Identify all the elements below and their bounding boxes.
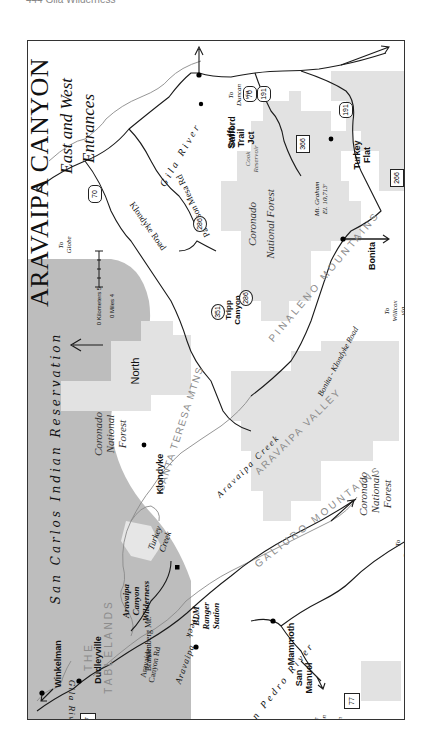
tablelands-label-2: TABLELANDS xyxy=(103,587,114,707)
dest-duncan-2: Duncan xyxy=(235,84,243,106)
forest-galiuro-label: Coronado National Forest xyxy=(357,472,393,516)
scale-km-end: 5 xyxy=(96,287,102,290)
map-frame: ARAVAIPA CANYON East and West Entrances … xyxy=(27,40,405,720)
blm-label-2: Ranger xyxy=(201,602,211,630)
town-turkey-flat-1: Turkey xyxy=(352,141,362,170)
shield-us191-a: 191 xyxy=(257,86,271,102)
scale-miles-label: 0 Miles 4 xyxy=(109,294,115,318)
dest-redington-1: To xyxy=(394,529,402,558)
forest-pinaleno-label: Coronado National Forest xyxy=(243,189,279,259)
patterson-mesa-label: Patterson Mesa Rd xyxy=(165,154,221,258)
dest-redington: To Redington xyxy=(394,529,405,558)
forest-pinaleno-label-1: Coronado xyxy=(243,189,261,259)
map-subtitle-line2: Entrances xyxy=(79,94,99,163)
dest-globe: To Globe xyxy=(57,236,73,253)
forest-north-label-2: National xyxy=(104,412,116,456)
north-label: North xyxy=(129,358,141,385)
turkey-creek-label: Turkey Creek xyxy=(146,525,175,556)
forest-galiuro-label-3: Forest xyxy=(381,472,393,516)
dest-willcox: To Willcox via Fort Grant Road xyxy=(383,301,406,322)
dest-globe-2: Globe xyxy=(65,236,73,253)
shield-sr286-b: 286 xyxy=(239,290,253,306)
mt-graham-label-2: El. 10,713' xyxy=(321,182,329,217)
town-dudleyville: Dudleyville xyxy=(93,636,103,684)
reservation-label: San Carlos Indian Reservation xyxy=(49,318,63,618)
dest-globe-1: To xyxy=(57,236,65,253)
town-bonita: Bonita xyxy=(367,242,377,270)
shield-sr366: 366 xyxy=(296,135,310,153)
town-san-manuel-2: Manuel xyxy=(304,662,314,693)
san-pedro-river-label: San Pedro River xyxy=(224,620,331,720)
scale-km-label: 0 Kilometers 5 xyxy=(96,287,102,325)
forest-north-label-1: Coronado xyxy=(92,412,104,456)
blm-label-3: Station xyxy=(211,602,221,630)
town-winkelman: Winkelman xyxy=(53,640,63,687)
gila-river-label-west: Gila River xyxy=(67,680,77,720)
wilderness-label-2: Canyon xyxy=(131,581,141,622)
map-subtitle-line1: East and West xyxy=(57,78,77,174)
town-tripp-canyon-1: Tripp xyxy=(224,295,233,324)
brandenberg-label-2: Mt. xyxy=(144,617,153,628)
shield-sr77-b: 77 xyxy=(344,693,360,709)
shield-sr286-a: 286 xyxy=(193,216,207,232)
shield-sr266: 266 xyxy=(390,169,404,187)
dest-duncan-3: via xyxy=(243,84,251,106)
map-title-block: ARAVAIPA CANYON East and West Entrances xyxy=(27,50,111,720)
town-turkey-flat: Turkey Flat xyxy=(352,141,372,170)
cook-label-1: Cook xyxy=(244,145,252,172)
shield-us70-top: 70 xyxy=(88,185,102,203)
shield-sr77-a: 77 xyxy=(80,713,96,720)
shield-us191-b: 191 xyxy=(339,102,353,118)
forest-galiuro-label-1: Coronado xyxy=(357,472,369,516)
dest-willcox-1: To xyxy=(383,301,391,322)
cook-reservoir-label: Cook Reservoir xyxy=(244,145,260,172)
page-header: 444 Gila Wilderness xyxy=(26,0,115,5)
klondyke-road-label: Klondyke Road xyxy=(115,182,181,270)
scale-miles-start: 0 xyxy=(109,315,115,318)
mt-graham-label-1: Mt. Graham xyxy=(313,182,321,217)
wilderness-label: Aravaipa Canyon Wilderness xyxy=(121,581,151,622)
scale-miles-text: Miles xyxy=(109,299,115,313)
town-klondyke: Klondyke xyxy=(155,454,165,495)
dest-duncan-1: To xyxy=(227,84,235,106)
dest-duncan: To Duncan via xyxy=(227,84,251,106)
cook-label-2: Reservoir xyxy=(252,145,260,172)
bonita-klondyke-label: Bonita - Klondyke Road xyxy=(306,306,370,416)
map-title: ARAVAIPA CANYON xyxy=(27,58,55,307)
forest-pinaleno-label-2: National Forest xyxy=(261,189,279,259)
town-turkey-flat-2: Flat xyxy=(362,141,372,170)
aravaipa-valley-label: ARAVAIPA VALLEY xyxy=(245,378,352,485)
aravaipa-creek-label-upper: Aravaipa Creek xyxy=(202,420,294,512)
dest-willcox-2: Willcox xyxy=(391,301,399,322)
town-swift-trail-1: Swift xyxy=(226,127,236,149)
forest-north-label-3: Forest xyxy=(116,412,128,456)
wilderness-label-3: Wilderness xyxy=(141,581,151,622)
aravaipa-canyon-rd-label: Aravaipa Canyon Rd xyxy=(138,645,162,684)
mt-graham-label: Mt. Graham El. 10,713' xyxy=(313,182,329,217)
forest-galiuro-label-2: National xyxy=(369,472,381,516)
scale-km-start: 0 xyxy=(96,322,102,325)
forest-north-label: Coronado National Forest xyxy=(92,412,128,456)
aravaipa-creek-label-lower: Aravaipa xyxy=(173,643,197,685)
scale-miles-end: 4 xyxy=(109,294,115,297)
wilderness-label-1: Aravaipa xyxy=(121,581,131,622)
shield-sr351: 351 xyxy=(211,304,225,320)
scale-km-text: Kilometers xyxy=(96,292,102,320)
